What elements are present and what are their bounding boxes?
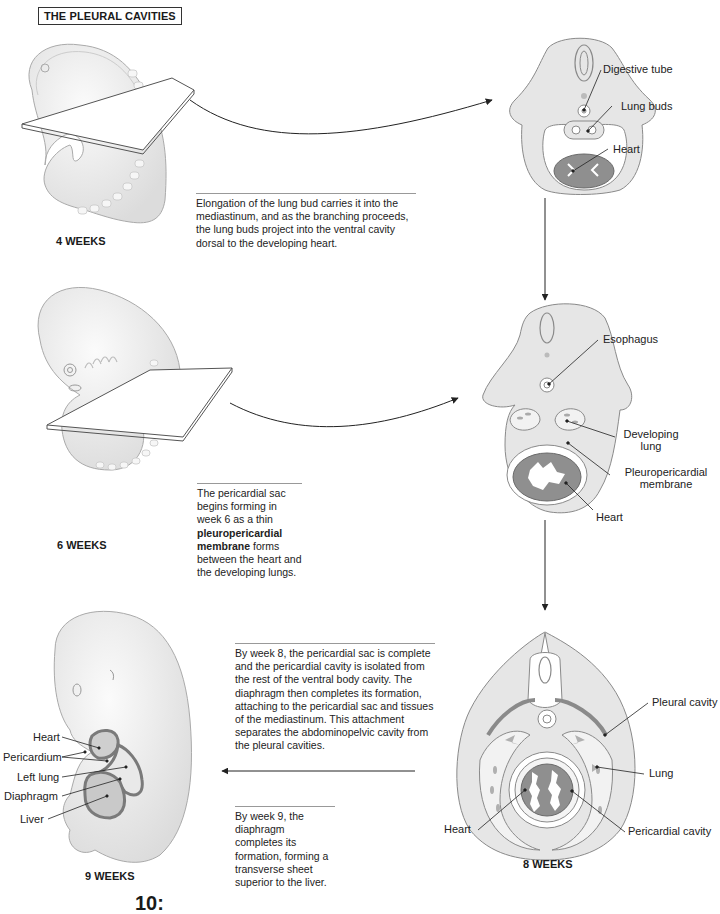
label-esophagus: Esophagus <box>603 333 658 345</box>
label-membrane-line2: membrane <box>611 478 720 490</box>
caption-6-weeks-text-a: The pericardial sac begins forming in we… <box>197 487 286 525</box>
label-digestive-tube: Digestive tube <box>603 63 673 75</box>
caption-6-weeks: The pericardial sac begins forming in we… <box>197 483 302 579</box>
embryo-9-weeks <box>54 611 191 862</box>
label-pericardial-cavity: Pericardial cavity <box>628 825 711 837</box>
label-left-lung: Left lung <box>17 771 59 783</box>
label-developing-lung-line1: Developing <box>616 428 686 440</box>
label-pericardium: Pericardium <box>3 751 62 763</box>
label-liver: Liver <box>20 813 44 825</box>
caption-4-weeks: Elongation of the lung bud carries it in… <box>196 193 416 250</box>
stage-label-9-weeks: 9 WEEKS <box>85 870 135 882</box>
label-developing-lung: Developing lung <box>616 428 686 452</box>
page-number-fragment: 10: <box>135 892 164 914</box>
figure-title: THE PLEURAL CAVITIES <box>38 7 182 25</box>
label-pleural-cavity: Pleural cavity <box>652 696 717 708</box>
caption-8-weeks: By week 8, the pericardial sac is comple… <box>235 643 435 753</box>
stage-label-4-weeks: 4 WEEKS <box>56 235 106 247</box>
label-pleuropericardial-membrane: Pleuropericardial membrane <box>611 466 720 490</box>
arrow-4wk-to-section <box>190 100 492 134</box>
label-membrane-line1: Pleuropericardial <box>611 466 720 478</box>
label-heart-9wk: Heart <box>33 731 60 743</box>
arrow-6wk-to-section <box>230 398 458 427</box>
stage-label-8-weeks: 8 WEEKS <box>523 858 573 870</box>
label-lung-buds: Lung buds <box>621 100 672 112</box>
label-heart-6wk: Heart <box>596 511 623 523</box>
label-lung: Lung <box>649 767 673 779</box>
embryo-6-weeks <box>38 287 232 470</box>
label-diaphragm: Diaphragm <box>4 790 58 802</box>
stage-label-6-weeks: 6 WEEKS <box>57 539 107 551</box>
caption-9-weeks: By week 9, the diaphragm completes its f… <box>235 806 335 889</box>
label-heart-4wk: Heart <box>613 143 640 155</box>
embryo-4-weeks <box>22 44 194 223</box>
label-heart-8wk: Heart <box>444 823 471 835</box>
section-4-weeks <box>510 38 656 194</box>
label-developing-lung-line2: lung <box>616 440 686 452</box>
